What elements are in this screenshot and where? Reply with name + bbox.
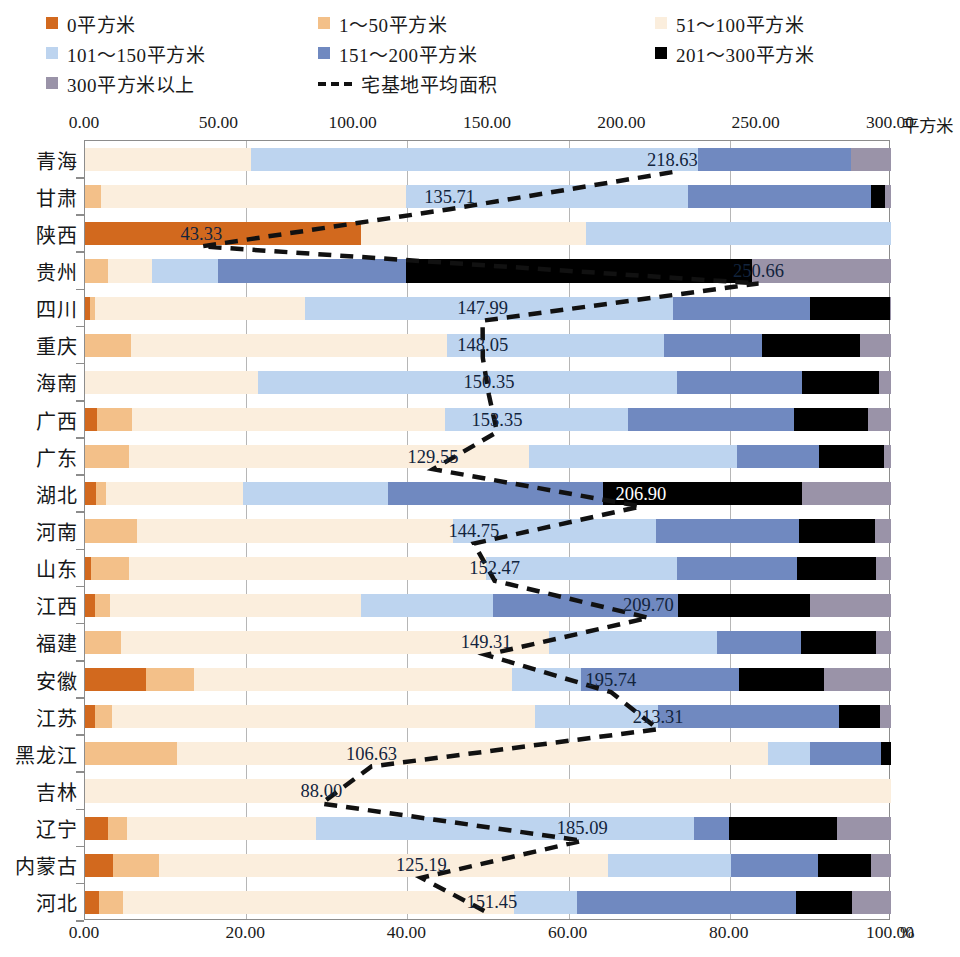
bar-segment-4[interactable]: [698, 148, 851, 171]
bar-segment-1[interactable]: [113, 854, 159, 877]
bar-segment-5[interactable]: [819, 445, 883, 468]
bar-segment-0[interactable]: [85, 594, 95, 617]
bar-segment-4[interactable]: [673, 297, 809, 320]
bar-segment-2[interactable]: [129, 445, 529, 468]
bar-segment-5[interactable]: [818, 854, 870, 877]
bar-segment-0[interactable]: [85, 705, 95, 728]
bar-segment-1[interactable]: [95, 594, 110, 617]
bar-row[interactable]: [85, 594, 889, 617]
bar-segment-3[interactable]: [529, 445, 737, 468]
bar-segment-2[interactable]: [127, 817, 316, 840]
bar-segment-5[interactable]: [797, 557, 875, 580]
bar-segment-3[interactable]: [768, 742, 810, 765]
bar-segment-1[interactable]: [85, 334, 131, 357]
bar-segment-2[interactable]: [112, 705, 534, 728]
bar-segment-3[interactable]: [316, 817, 694, 840]
bar-segment-4[interactable]: [688, 185, 871, 208]
bar-segment-5[interactable]: [729, 817, 837, 840]
bar-segment-4[interactable]: [664, 334, 762, 357]
bar-segment-2[interactable]: [361, 222, 586, 245]
bar-segment-5[interactable]: [799, 519, 875, 542]
bar-segment-5[interactable]: [796, 891, 852, 914]
bar-segment-6[interactable]: [876, 631, 891, 654]
bar-row[interactable]: [85, 185, 889, 208]
bar-segment-2[interactable]: [137, 519, 454, 542]
bar-segment-5[interactable]: [801, 631, 876, 654]
bar-segment-2[interactable]: [85, 779, 891, 802]
bar-row[interactable]: [85, 148, 889, 171]
bar-segment-4[interactable]: [737, 445, 819, 468]
bar-segment-4[interactable]: [656, 519, 799, 542]
bar-segment-0[interactable]: [85, 817, 108, 840]
bar-segment-1[interactable]: [85, 742, 177, 765]
bar-segment-1[interactable]: [146, 668, 194, 691]
bar-segment-2[interactable]: [123, 891, 514, 914]
bar-segment-6[interactable]: [868, 408, 891, 431]
bar-segment-0[interactable]: [85, 854, 113, 877]
bar-segment-5[interactable]: [794, 408, 867, 431]
bar-segment-6[interactable]: [885, 185, 891, 208]
bar-row[interactable]: [85, 445, 889, 468]
bar-segment-6[interactable]: [837, 817, 891, 840]
bar-segment-2[interactable]: [95, 297, 305, 320]
bar-segment-3[interactable]: [549, 631, 717, 654]
bar-segment-0[interactable]: [85, 408, 97, 431]
bar-segment-2[interactable]: [106, 482, 243, 505]
bar-segment-1[interactable]: [91, 557, 128, 580]
bar-segment-1[interactable]: [97, 408, 132, 431]
bar-segment-2[interactable]: [108, 259, 152, 282]
bar-segment-5[interactable]: [678, 594, 810, 617]
bar-segment-4[interactable]: [694, 817, 729, 840]
bar-segment-2[interactable]: [194, 668, 512, 691]
bar-row[interactable]: [85, 705, 889, 728]
bar-segment-3[interactable]: [361, 594, 492, 617]
bar-segment-1[interactable]: [96, 482, 106, 505]
bar-segment-1[interactable]: [108, 817, 127, 840]
bar-segment-1[interactable]: [85, 631, 121, 654]
bar-segment-6[interactable]: [876, 557, 891, 580]
bar-segment-4[interactable]: [628, 408, 794, 431]
bar-segment-5[interactable]: [839, 705, 880, 728]
bar-row[interactable]: [85, 854, 889, 877]
bar-segment-6[interactable]: [890, 297, 891, 320]
bar-segment-6[interactable]: [860, 334, 891, 357]
bar-segment-6[interactable]: [802, 482, 891, 505]
bar-segment-5[interactable]: [810, 297, 891, 320]
bar-segment-6[interactable]: [871, 854, 891, 877]
bar-segment-3[interactable]: [152, 259, 218, 282]
bar-segment-1[interactable]: [85, 445, 129, 468]
bar-segment-5[interactable]: [802, 371, 879, 394]
bar-segment-5[interactable]: [871, 185, 885, 208]
bar-segment-6[interactable]: [880, 705, 890, 728]
bar-row[interactable]: [85, 817, 889, 840]
bar-segment-2[interactable]: [110, 594, 361, 617]
bar-segment-4[interactable]: [717, 631, 801, 654]
bar-segment-4[interactable]: [577, 891, 796, 914]
bar-segment-5[interactable]: [406, 259, 753, 282]
bar-segment-0[interactable]: [85, 482, 96, 505]
bar-segment-4[interactable]: [731, 854, 819, 877]
bar-segment-2[interactable]: [129, 557, 486, 580]
bar-segment-1[interactable]: [85, 259, 108, 282]
bar-segment-2[interactable]: [131, 334, 447, 357]
bar-segment-3[interactable]: [514, 891, 577, 914]
bar-segment-4[interactable]: [218, 259, 406, 282]
bar-segment-1[interactable]: [85, 519, 137, 542]
bar-segment-3[interactable]: [243, 482, 388, 505]
bar-segment-0[interactable]: [85, 222, 361, 245]
bar-segment-5[interactable]: [762, 334, 860, 357]
bar-segment-2[interactable]: [85, 371, 258, 394]
bar-segment-4[interactable]: [658, 705, 839, 728]
bar-segment-3[interactable]: [251, 148, 698, 171]
bar-segment-2[interactable]: [101, 185, 406, 208]
bar-segment-1[interactable]: [95, 705, 112, 728]
bar-segment-6[interactable]: [824, 668, 891, 691]
bar-segment-3[interactable]: [512, 668, 581, 691]
bar-segment-6[interactable]: [852, 891, 891, 914]
bar-segment-1[interactable]: [99, 891, 123, 914]
bar-segment-0[interactable]: [85, 891, 99, 914]
bar-segment-4[interactable]: [388, 482, 603, 505]
bar-segment-2[interactable]: [85, 148, 251, 171]
bar-row[interactable]: [85, 779, 889, 802]
bar-segment-4[interactable]: [677, 557, 797, 580]
